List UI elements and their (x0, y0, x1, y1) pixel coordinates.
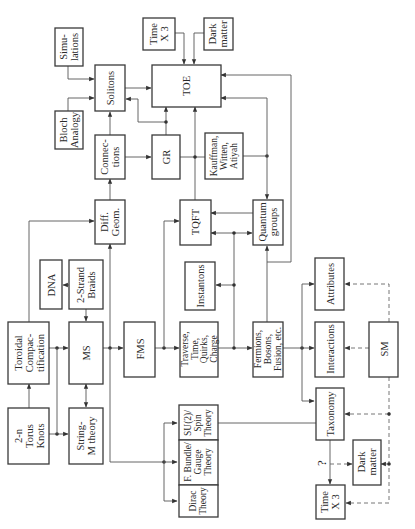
svg-text:TOE: TOE (181, 76, 192, 96)
svg-text:Instantons: Instantons (195, 264, 206, 307)
node-ms: MS (69, 322, 103, 384)
svg-text:Darkmatter: Darkmatter (207, 20, 229, 47)
node-su2-spin-theory: SU(2)/SpinTheory (179, 405, 218, 440)
svg-text:SM: SM (379, 341, 390, 357)
svg-text:DiracTheory: DiracTheory (188, 487, 208, 515)
node-quantum-groups: Quantumgroups (253, 200, 283, 245)
node-interactions: Interactions (315, 322, 344, 377)
node-2-n-torus-knots: 2-nTorusKnots (8, 408, 49, 464)
node-toroidal-compactification: ToroidalCompac-tification (8, 322, 49, 384)
node-instantons: Instantons (185, 262, 215, 310)
node-toe: TOE (152, 65, 221, 107)
node-2-strand-braids: 2-StrandBraids (69, 260, 103, 309)
node-bloch-analogy: BlochAnalogy (55, 111, 83, 149)
node-simulations: Simu-lations (55, 28, 83, 66)
node-tqft: TQFT (180, 200, 211, 245)
svg-text:FMS: FMS (135, 338, 146, 359)
node-time-x3-bottom: TimeX 3 (316, 485, 345, 519)
node-solitons: Solitons (95, 65, 125, 111)
svg-text:DNA: DNA (46, 273, 57, 296)
svg-text:String-M theory: String-M theory (75, 416, 97, 456)
node-time-x3-top: TimeX 3 (143, 18, 175, 50)
node-fermions-bosons-fusion: Fermions,Bosons,Fusion, etc. (253, 322, 283, 377)
svg-text:TQFT: TQFT (190, 208, 201, 235)
svg-text:Traverse,Time,Quirks,Charge: Traverse,Time,Quirks,Charge (180, 331, 219, 366)
svg-text:Interactions: Interactions (325, 324, 336, 374)
svg-text:ToroidalCompac-tification: ToroidalCompac-tification (13, 333, 46, 372)
svg-text:Diff.Geom.: Diff.Geom. (99, 208, 121, 236)
svg-text:Solitons: Solitons (105, 71, 116, 105)
node-dna: DNA (40, 260, 62, 309)
node-kauffman-witten-atiyah: Kauffman,Witten,Atiyah (205, 133, 243, 179)
node-fiber-bundle-gauge-theory: F. Bundle/GaugeTheory (179, 440, 218, 485)
svg-text:Darkmatter: Darkmatter (356, 448, 378, 475)
svg-text:MS: MS (81, 345, 92, 360)
node-gr: GR (152, 135, 180, 179)
svg-text:GR: GR (161, 150, 172, 165)
node-taxonomy: Taxonomy (316, 388, 344, 440)
node-traverse-time-quirks-charge: Traverse,Time,Quirks,Charge (180, 322, 219, 377)
theory-diagram: Simu-lations BlochAnalogy Solitons TimeX… (0, 0, 415, 529)
svg-text:Taxonomy: Taxonomy (325, 391, 336, 437)
node-string-m-theory: String-M theory (69, 408, 103, 464)
node-diff-geom: Diff.Geom. (95, 200, 125, 244)
svg-text:2-StrandBraids: 2-StrandBraids (75, 266, 97, 303)
question-mark-label: ? (314, 460, 329, 466)
svg-text:Simu-lations: Simu-lations (58, 33, 80, 61)
svg-text:Attributes: Attributes (325, 263, 336, 305)
node-attributes: Attributes (315, 258, 344, 310)
node-dark-matter-top: Darkmatter (204, 18, 233, 50)
node-connections: Connec-tions (95, 135, 125, 179)
node-sm: SM (369, 322, 398, 377)
node-fms: FMS (124, 322, 155, 377)
node-dark-matter-bottom: Darkmatter (353, 440, 381, 485)
svg-text:Quantumgroups: Quantumgroups (257, 202, 279, 241)
node-dirac-theory: DiracTheory (179, 485, 218, 517)
